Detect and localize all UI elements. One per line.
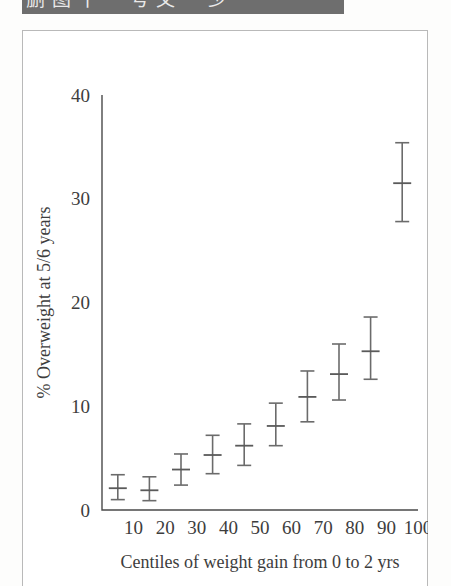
x-tick-label: 40 bbox=[219, 517, 238, 538]
data-point-group bbox=[330, 344, 348, 400]
chart-canvas: 010203040102030405060708090100Centiles o… bbox=[22, 30, 428, 586]
x-tick-label: 30 bbox=[187, 517, 206, 538]
x-tick-label: 20 bbox=[156, 517, 175, 538]
data-point-group bbox=[267, 403, 285, 446]
y-tick-label: 0 bbox=[81, 500, 91, 521]
y-tick-label: 30 bbox=[71, 188, 90, 209]
axis-lines bbox=[102, 95, 418, 510]
data-point-group bbox=[235, 424, 253, 466]
y-tick-label: 10 bbox=[71, 396, 90, 417]
clipped-header-bar: 删图十一号文一少 bbox=[22, 0, 344, 14]
data-point-group bbox=[204, 435, 222, 473]
x-tick-label: 10 bbox=[124, 517, 143, 538]
x-axis-title: Centiles of weight gain from 0 to 2 yrs bbox=[121, 552, 400, 572]
data-point-group bbox=[140, 477, 158, 501]
x-tick-label: 90 bbox=[377, 517, 396, 538]
y-tick-label: 20 bbox=[71, 292, 90, 313]
x-tick-label: 60 bbox=[282, 517, 301, 538]
data-point-group bbox=[109, 475, 127, 500]
x-tick-label: 80 bbox=[345, 517, 364, 538]
x-tick-label: 50 bbox=[251, 517, 270, 538]
data-point-group bbox=[393, 143, 411, 222]
y-tick-label: 40 bbox=[71, 85, 90, 106]
chart-plot-group: 010203040102030405060708090100Centiles o… bbox=[34, 85, 428, 573]
data-point-group bbox=[172, 454, 190, 485]
clipped-header-text: 删图十一号文一少 bbox=[26, 0, 234, 11]
x-tick-label: 100 bbox=[404, 517, 428, 538]
y-axis-title: % Overweight at 5/6 years bbox=[34, 207, 54, 399]
data-point-group bbox=[362, 317, 380, 379]
data-point-group bbox=[298, 371, 316, 422]
x-tick-label: 70 bbox=[314, 517, 333, 538]
